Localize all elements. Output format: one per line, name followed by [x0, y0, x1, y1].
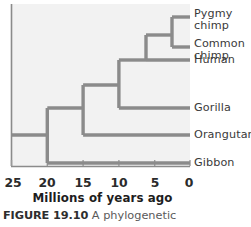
x-axis-tick-15: 15	[74, 175, 91, 190]
tip-label-human: Human	[194, 54, 235, 66]
x-axis-tick-0: 0	[185, 175, 194, 190]
figure-caption: FIGURE 19.10 A phylogenetic	[3, 209, 251, 222]
tip-label-orangutan: Orangutan	[194, 129, 251, 141]
figure-container: Pygmy chimp Common chimp Human Gorilla O…	[0, 0, 251, 227]
x-axis-tick-20: 20	[38, 175, 55, 190]
tip-label-pygmy-chimp: Pygmy chimp	[194, 8, 233, 32]
figure-caption-text: A phylogenetic	[92, 209, 176, 222]
tip-label-gorilla: Gorilla	[194, 102, 231, 114]
x-axis-title: Millions of years ago	[0, 191, 205, 205]
x-axis-tick-10: 10	[110, 175, 127, 190]
x-axis-tick-5: 5	[151, 175, 160, 190]
phylogenetic-tree-plot: Pygmy chimp Common chimp Human Gorilla O…	[0, 0, 251, 172]
figure-caption-number: FIGURE 19.10	[3, 209, 88, 222]
tip-label-gibbon: Gibbon	[194, 157, 235, 169]
x-axis-tick-25: 25	[4, 175, 21, 190]
